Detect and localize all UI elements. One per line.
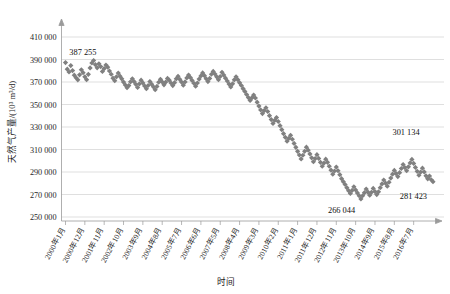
data-label: 387 255 (69, 48, 96, 57)
x-axis-title: 时间 (217, 276, 235, 287)
y-axis-tick-label: 390 000 (30, 56, 57, 65)
y-axis-arrow-icon (59, 19, 64, 26)
data-label: 266 044 (328, 206, 356, 215)
x-axis-tick-marks (66, 221, 414, 225)
y-axis-tick-label: 250 000 (30, 213, 57, 222)
data-label: 301 134 (392, 128, 420, 137)
y-axis-tick-label: 410 000 (30, 33, 57, 42)
x-axis-tick-labels: 2000年1月2000年12月2001年11月2002年10月2003年9月20… (42, 225, 415, 264)
gridlines-group (62, 37, 445, 217)
x-axis-arrow-icon (436, 218, 443, 223)
y-axis-tick-label: 330 000 (30, 123, 57, 132)
data-point-markers (63, 58, 436, 202)
data-point (88, 65, 93, 70)
chart-figure: 250 000270 000290 000310 000330 000350 0… (0, 0, 450, 294)
y-axis-tick-label: 370 000 (30, 78, 57, 87)
y-axis-tick-label: 310 000 (30, 146, 57, 155)
data-label: 281 423 (400, 192, 427, 201)
y-axis-tick-labels: 250 000270 000290 000310 000330 000350 0… (30, 33, 57, 222)
data-point (68, 63, 73, 68)
y-axis-tick-label: 270 000 (30, 191, 57, 200)
data-point (63, 60, 68, 65)
y-axis-tick-label: 350 000 (30, 101, 57, 110)
natural-gas-production-scatter-chart: 250 000270 000290 000310 000330 000350 0… (0, 0, 450, 294)
y-axis-tick-label: 290 000 (30, 168, 57, 177)
y-axis-title: 天然气产量/(10³ m³/d) (6, 81, 17, 164)
